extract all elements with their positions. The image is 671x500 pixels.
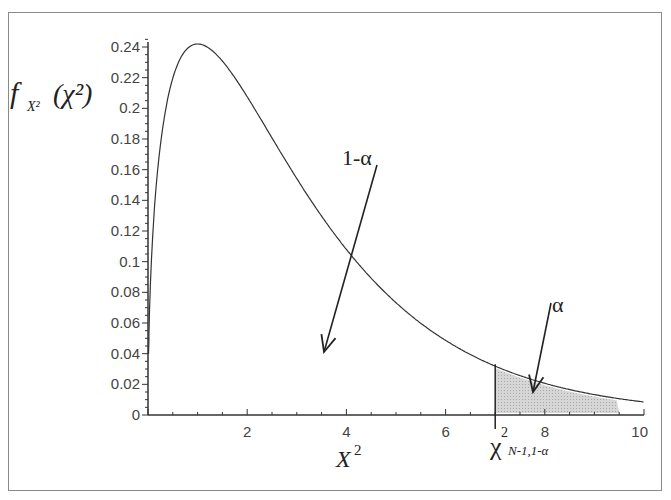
alpha-shaded-region [495,368,619,413]
arrow-one-minus-alpha [324,165,377,352]
y-tick-label: 0.08 [111,283,140,300]
axes: 00.020.040.060.080.10.120.140.160.180.20… [111,38,648,440]
x-tick-label: 2 [243,423,251,440]
y-tick-label: 0 [132,406,140,423]
critical-value-sub: N-1,1-α [507,443,550,458]
y-tick-label: 0.12 [111,222,140,239]
x-tick-label: 6 [441,423,449,440]
y-tick-label: 0.18 [111,130,140,147]
y-tick-label: 0.06 [111,314,140,331]
y-tick-label: 0.02 [111,375,140,392]
y-tick-label: 0.14 [111,191,140,208]
pdf-curve [149,44,644,402]
x-axis-label-sup: 2 [354,442,362,458]
x-tick-label: 10 [631,423,648,440]
y-tick-label: 0.22 [111,69,140,86]
x-tick-label: 8 [541,423,549,440]
y-tick-label: 0.1 [119,253,140,270]
y-axis-label-sub: X² [26,99,41,114]
annotation-alpha: α [552,292,564,317]
critical-value-sup: 2 [501,425,508,440]
y-axis-label-f: f [10,76,22,109]
y-tick-label: 0.04 [111,345,140,362]
y-tick-label: 0.2 [119,99,140,116]
x-axis-label: X [335,446,352,472]
chi-square-chart: 00.020.040.060.080.10.120.140.160.180.20… [0,0,671,500]
axis-labels: f X² (χ²) X 2 1-α α χ 2 N-1,1-α [10,76,564,472]
annotation-one-minus-alpha: 1-α [342,145,372,170]
x-tick-label: 4 [342,423,350,440]
y-tick-label: 0.16 [111,161,140,178]
y-tick-label: 0.24 [111,38,140,55]
y-axis-label-arg: (χ²) [53,78,92,109]
